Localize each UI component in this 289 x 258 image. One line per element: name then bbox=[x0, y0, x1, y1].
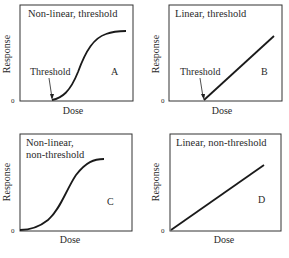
panel-b-x-label: Dose bbox=[212, 105, 233, 116]
panel-b: Linear, threshold Response Dose 0 Thresh… bbox=[150, 5, 282, 116]
panel-c-letter: C bbox=[107, 196, 114, 207]
panel-c-title-line-2: non-threshold bbox=[26, 149, 85, 160]
panel-a-frame bbox=[20, 5, 133, 101]
panel-c-y-label: Response bbox=[1, 162, 12, 201]
panel-a: Non-linear, threshold Response Dose 0 Th… bbox=[1, 5, 133, 116]
panel-a-threshold-label: Threshold bbox=[30, 66, 71, 77]
panel-a-letter: A bbox=[111, 66, 119, 77]
panel-d-letter: D bbox=[258, 194, 265, 205]
panel-b-letter: B bbox=[261, 66, 268, 77]
panel-d-x-label: Dose bbox=[214, 234, 235, 245]
dose-response-figure: Non-linear, threshold Response Dose 0 Th… bbox=[0, 0, 289, 258]
panel-c-origin-label: 0 bbox=[11, 227, 15, 235]
panel-d-y-label: Response bbox=[150, 162, 161, 201]
panel-b-title: Linear, threshold bbox=[175, 8, 247, 19]
panel-d: Linear, non-threshold Response Dose 0 D bbox=[150, 134, 281, 245]
panel-d-title: Linear, non-threshold bbox=[176, 137, 267, 148]
panel-a-origin-label: 0 bbox=[11, 97, 15, 105]
panel-c: Non-linear, non-threshold Response Dose … bbox=[1, 134, 132, 245]
panel-d-line bbox=[171, 165, 264, 230]
panel-c-x-label: Dose bbox=[60, 234, 81, 245]
panel-b-threshold-label: Threshold bbox=[180, 66, 221, 77]
panel-a-x-label: Dose bbox=[63, 105, 84, 116]
panel-c-title-line-1: Non-linear, bbox=[26, 137, 74, 148]
panel-d-origin-label: 0 bbox=[161, 227, 165, 235]
panel-b-y-label: Response bbox=[150, 34, 161, 73]
panel-a-title: Non-linear, threshold bbox=[28, 8, 118, 19]
panel-b-origin-label: 0 bbox=[161, 97, 165, 105]
panel-c-curve bbox=[20, 159, 104, 230]
panel-d-frame bbox=[170, 134, 281, 231]
panel-a-y-label: Response bbox=[1, 34, 12, 73]
panel-b-frame bbox=[169, 5, 282, 101]
